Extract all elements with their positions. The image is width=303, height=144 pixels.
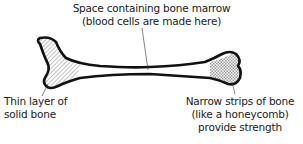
solid-bone-label-line1: Thin layer of xyxy=(4,95,76,108)
marrow-label-line2: (blood cells are made here) xyxy=(0,15,303,28)
spongy-bone-label-line3: provide strength xyxy=(180,121,300,134)
solid-bone-label-line2: solid bone xyxy=(4,108,76,121)
marrow-label: Space containing bone marrow (blood cell… xyxy=(0,2,303,28)
marrow-label-line1: Space containing bone marrow xyxy=(0,2,303,15)
spongy-bone-label-line2: (like a honeycomb) xyxy=(180,108,300,121)
spongy-bone-label: Narrow strips of bone (like a honeycomb)… xyxy=(180,95,300,134)
marrow-pointer-line xyxy=(142,28,148,70)
spongy-bone-label-line1: Narrow strips of bone xyxy=(180,95,300,108)
solid-bone-label: Thin layer of solid bone xyxy=(4,95,76,121)
